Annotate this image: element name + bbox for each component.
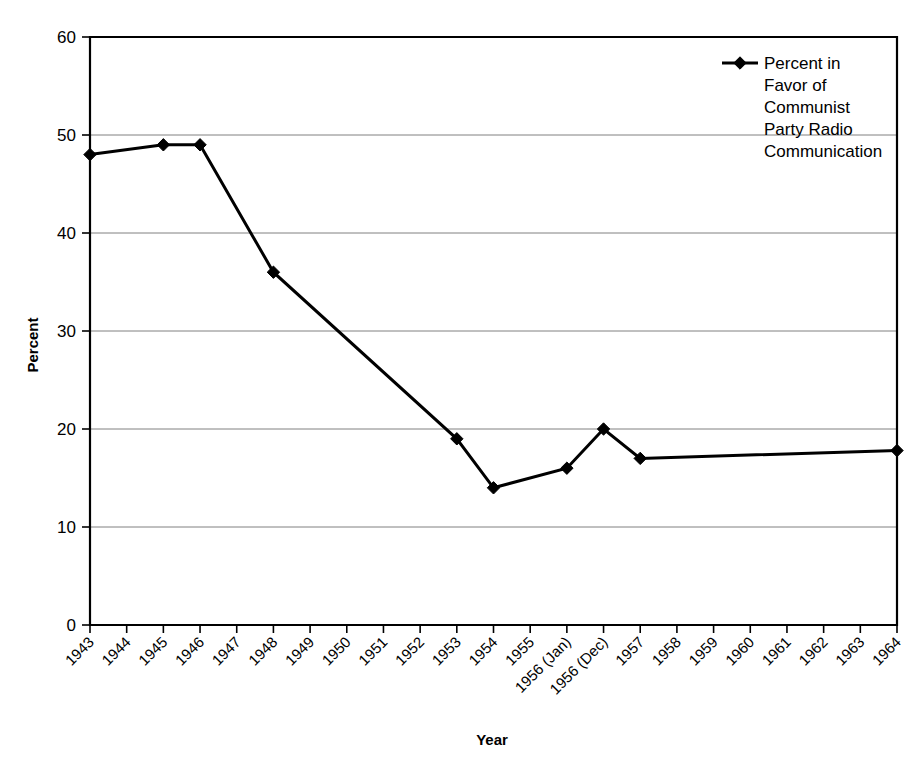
chart-legend: Percent inFavor ofCommunistParty RadioCo… [722,54,882,161]
x-axis-tick-label: 1944 [98,633,134,669]
x-axis-tick-label: 1954 [465,633,501,669]
y-axis-tick-label: 60 [57,28,76,47]
y-axis-tick-label: 0 [67,616,76,635]
legend-label-line: Party Radio [764,120,853,139]
x-axis-tick-label: 1962 [795,633,831,669]
x-axis-tick-label: 1948 [245,633,281,669]
y-axis-tick-label: 40 [57,224,76,243]
x-axis-labels-group: 1943194419451946194719481949195019511952… [62,633,905,697]
x-axis-tick-label: 1951 [355,633,391,669]
series-line [90,145,897,488]
x-axis-tick-label: 1963 [832,633,868,669]
x-axis-title: Year [476,731,508,748]
y-axis-tick-label: 20 [57,420,76,439]
x-axis-tick-label: 1950 [318,633,354,669]
x-axis-tick-label: 1953 [428,633,464,669]
x-axis-tick-label: 1961 [758,633,794,669]
line-chart: 1943194419451946194719481949195019511952… [0,0,923,768]
data-point-marker [157,139,169,151]
x-axis-tick-label: 1959 [685,633,721,669]
data-point-marker [84,148,96,160]
legend-label-line: Percent in [764,54,841,73]
x-axis-tick-label: 1964 [869,633,905,669]
y-axis-title: Percent [24,317,41,372]
legend-label-line: Favor of [764,76,827,95]
legend-label-line: Communist [764,98,850,117]
data-series-group [84,139,903,494]
y-axis-labels-group: 0102030405060 [57,28,76,635]
x-axis-ticks-group [90,625,897,633]
data-point-marker [194,139,206,151]
data-point-marker [891,444,903,456]
y-axis-tick-label: 30 [57,322,76,341]
y-axis-tick-label: 10 [57,518,76,537]
x-axis-tick-label: 1957 [612,633,648,669]
gridlines-group [90,135,897,527]
x-axis-tick-label: 1947 [208,633,244,669]
legend-diamond-marker [734,57,746,69]
x-axis-tick-label: 1949 [282,633,318,669]
x-axis-tick-label: 1960 [722,633,758,669]
x-axis-tick-label: 1958 [648,633,684,669]
legend-label-line: Communication [764,142,882,161]
chart-container: 1943194419451946194719481949195019511952… [0,0,923,768]
x-axis-tick-label: 1946 [172,633,208,669]
x-axis-tick-label: 1952 [392,633,428,669]
x-axis-tick-label: 1945 [135,633,171,669]
y-axis-tick-label: 50 [57,126,76,145]
y-axis-ticks-group [82,37,90,625]
x-axis-tick-label: 1943 [62,633,98,669]
